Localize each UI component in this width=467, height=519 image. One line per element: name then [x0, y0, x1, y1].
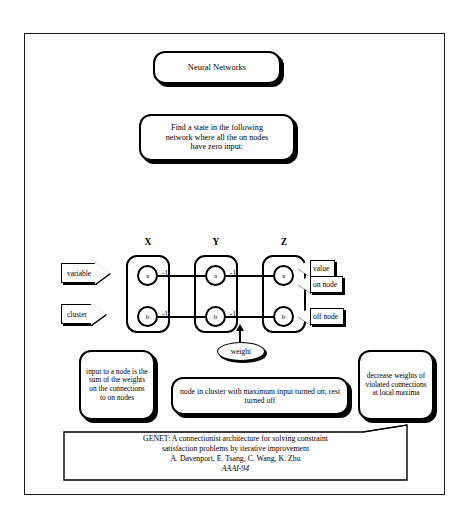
callout-value-label: value: [310, 260, 335, 277]
citation-document: GENET: A connectionist architecture for …: [63, 424, 408, 481]
callout-off-node-label: off node: [310, 308, 344, 325]
callout-on-node-label: on node: [310, 276, 343, 293]
node-x-b[interactable]: b: [137, 306, 158, 327]
note-box-cluster-rule: node in cluster with maximum input turne…: [171, 377, 349, 415]
problem-line-1: Find a state in the following: [171, 123, 263, 132]
problem-line-2: network where all the on nodes: [166, 133, 269, 142]
citation-text: GENET: A connectionist architecture for …: [63, 424, 408, 481]
callout-variable-label: variable: [61, 263, 95, 283]
problem-line-3: have zero input:: [191, 142, 244, 151]
title-text: Neural Networks: [183, 60, 251, 74]
note-left-text: input to a node is the sum of the weight…: [81, 366, 153, 405]
arrow-head-icon: [95, 262, 110, 284]
weight-label-xa-ya: -1: [162, 269, 168, 278]
arrow-head-icon: [297, 307, 310, 325]
note-box-learning-rule: decrease weights of violated connections…: [358, 350, 434, 420]
citation-title-line-2: satisfaction problems by iterative impro…: [162, 444, 309, 454]
callout-weight-label: weight: [231, 347, 251, 356]
node-x-a[interactable]: a: [137, 265, 158, 286]
weight-label-ya-za: -1: [230, 269, 236, 278]
problem-statement-text: Find a state in the following network wh…: [161, 121, 274, 154]
title-box: Neural Networks: [153, 51, 281, 84]
citation-authors: A. Davenport, E. Tsang, C. Wang, K. Zhu: [170, 454, 300, 464]
citation-venue: AAAI-94: [222, 464, 249, 474]
column-label-y: Y: [206, 237, 226, 247]
node-z-a[interactable]: a: [273, 265, 294, 286]
citation-title-line-1: GENET: A connectionist architecture for …: [143, 434, 328, 444]
network-diagram: X Y Z a b a b a b -1 -1 -1 -1 variable: [25, 199, 446, 349]
callout-variable: variable: [61, 262, 110, 284]
node-z-b[interactable]: b: [273, 306, 294, 327]
callout-cluster-label: cluster: [61, 304, 91, 324]
node-y-b[interactable]: b: [205, 306, 226, 327]
note-middle-text: node in cluster with maximum input turne…: [173, 385, 347, 407]
weight-label-yb-zb: -1: [230, 310, 236, 319]
slide-frame: Neural Networks Find a state in the foll…: [24, 33, 445, 495]
column-label-x: X: [138, 237, 158, 247]
callout-off-node: off node: [297, 307, 344, 325]
node-y-a[interactable]: a: [205, 265, 226, 286]
arrow-head-icon: [91, 303, 106, 325]
column-label-z: Z: [274, 237, 294, 247]
callout-on-node: on node: [297, 275, 343, 293]
arrow-head-icon: [297, 275, 310, 293]
callout-cluster: cluster: [61, 303, 106, 325]
callout-weight: weight: [217, 342, 265, 361]
note-right-text: decrease weights of violated connections…: [360, 370, 432, 400]
problem-statement-box: Find a state in the following network wh…: [139, 114, 295, 161]
weight-label-xb-yb: -1: [162, 310, 168, 319]
note-box-input-rule: input to a node is the sum of the weight…: [79, 350, 155, 420]
